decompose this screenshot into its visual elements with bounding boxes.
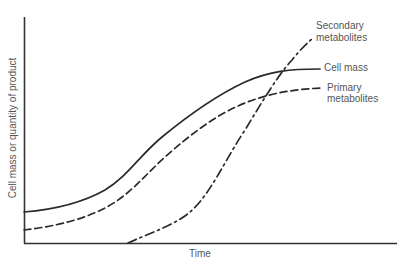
primary-metabolites-curve bbox=[24, 88, 323, 230]
cell-mass-curve bbox=[24, 69, 320, 212]
secondary-metabolites-curve bbox=[128, 39, 312, 243]
primary-metabolites-label-line2: metabolites bbox=[327, 93, 378, 104]
primary-metabolites-label-line1: Primary bbox=[327, 82, 361, 93]
x-axis-label: Time bbox=[189, 248, 211, 259]
growth-curve-chart: Secondary metabolites Cell mass Primary … bbox=[0, 0, 403, 266]
secondary-metabolites-label-line2: metabolites bbox=[316, 32, 367, 43]
y-axis-label: Cell mass or quantity of product bbox=[7, 57, 18, 198]
cell-mass-label: Cell mass bbox=[324, 62, 368, 73]
secondary-metabolites-label-line1: Secondary bbox=[316, 20, 364, 31]
